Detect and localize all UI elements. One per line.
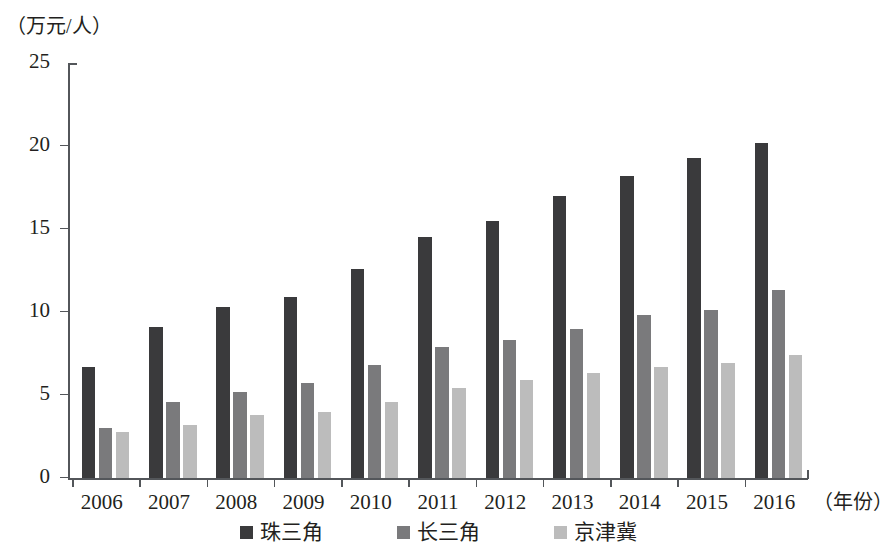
bar-group (284, 63, 332, 478)
bar-珠三角-2011 (418, 237, 432, 478)
x-axis-label-2009: 2009 (270, 487, 337, 517)
bar-珠三角-2007 (149, 327, 163, 478)
bar-group (82, 63, 130, 478)
bar-京津冀-2009 (318, 412, 332, 478)
bar-珠三角-2012 (486, 221, 500, 478)
y-axis-top-cap (68, 63, 77, 65)
y-axis-tick: 10 (60, 311, 68, 313)
bar-京津冀-2016 (789, 355, 803, 478)
x-axis-tick (745, 478, 747, 487)
bar-京津冀-2014 (654, 367, 668, 478)
x-axis-tick (476, 478, 478, 487)
x-axis-tick (139, 478, 141, 487)
bar-长三角-2012 (503, 340, 517, 478)
bar-长三角-2016 (772, 290, 786, 478)
x-axis-label-2013: 2013 (539, 487, 606, 517)
x-axis-tick (207, 478, 209, 487)
x-axis-label-2007: 2007 (135, 487, 202, 517)
y-axis-unit-label: （万元/人） (6, 10, 112, 39)
legend-item-京津冀[interactable]: 京津冀 (554, 521, 637, 543)
bar-group (149, 63, 197, 478)
bar-珠三角-2016 (755, 143, 769, 478)
bar-长三角-2008 (233, 392, 247, 478)
bar-长三角-2007 (166, 402, 180, 478)
legend-item-珠三角[interactable]: 珠三角 (240, 521, 323, 543)
legend-label: 长三角 (417, 521, 480, 543)
x-axis-line (68, 478, 808, 480)
y-axis-tick: 0 (60, 477, 68, 479)
x-axis-tick (72, 478, 74, 487)
bar-长三角-2006 (99, 428, 113, 478)
bar-珠三角-2006 (82, 367, 96, 478)
bar-长三角-2014 (637, 315, 651, 478)
y-axis-tick: 20 (60, 145, 68, 147)
y-axis-tick-label: 25 (29, 50, 50, 72)
y-axis-tick: 5 (60, 394, 68, 396)
bar-珠三角-2010 (351, 269, 365, 478)
bar-京津冀-2015 (721, 363, 735, 478)
legend-label: 珠三角 (260, 521, 323, 543)
bar-珠三角-2008 (216, 307, 230, 478)
bar-京津冀-2012 (520, 380, 534, 478)
legend-label: 京津冀 (574, 521, 637, 543)
y-axis-tick-label: 0 (40, 465, 51, 487)
legend-swatch-icon (397, 526, 410, 539)
bar-京津冀-2013 (587, 373, 601, 478)
bar-京津冀-2008 (250, 415, 264, 478)
bar-京津冀-2011 (452, 388, 466, 478)
x-axis-right-cap (807, 470, 809, 479)
x-axis-tick (610, 478, 612, 487)
legend-swatch-icon (554, 526, 567, 539)
x-axis-tick (408, 478, 410, 487)
y-axis-tick: 15 (60, 228, 68, 230)
y-axis-tick: 25 (60, 62, 68, 64)
x-axis-label-2012: 2012 (472, 487, 539, 517)
plot-area: 0510152025 20062007200820092010201120122… (68, 63, 808, 478)
y-axis-tick-label: 5 (40, 382, 51, 404)
bar-group (351, 63, 399, 478)
bar-长三角-2009 (301, 383, 315, 478)
bar-group (418, 63, 466, 478)
bar-group (755, 63, 803, 478)
y-axis-tick-label: 10 (29, 299, 50, 321)
bar-京津冀-2010 (385, 402, 399, 478)
bar-group (216, 63, 264, 478)
bar-珠三角-2014 (620, 176, 634, 478)
legend-swatch-icon (240, 526, 253, 539)
x-axis-label-2010: 2010 (337, 487, 404, 517)
bar-珠三角-2013 (553, 196, 567, 478)
bar-group (620, 63, 668, 478)
bar-珠三角-2009 (284, 297, 298, 478)
x-axis-label-2014: 2014 (606, 487, 673, 517)
bar-group (486, 63, 534, 478)
chart-legend: 珠三角长三角京津冀 (68, 516, 808, 548)
x-axis-label-2006: 2006 (68, 487, 135, 517)
x-axis-label-2008: 2008 (203, 487, 270, 517)
bar-长三角-2015 (704, 310, 718, 478)
bar-长三角-2010 (368, 365, 382, 478)
legend-item-长三角[interactable]: 长三角 (397, 521, 480, 543)
bar-group (687, 63, 735, 478)
y-axis-line (68, 63, 70, 478)
y-axis-tick-label: 15 (29, 216, 50, 238)
bar-京津冀-2007 (183, 425, 197, 478)
bar-京津冀-2006 (116, 432, 130, 478)
y-axis-tick-label: 20 (29, 133, 50, 155)
x-axis-tick (677, 478, 679, 487)
x-axis-label-2015: 2015 (673, 487, 740, 517)
bar-珠三角-2015 (687, 158, 701, 478)
bar-长三角-2013 (570, 329, 584, 478)
x-axis-unit-label: （年份） (813, 487, 884, 517)
bar-长三角-2011 (435, 347, 449, 478)
x-axis-tick (341, 478, 343, 487)
x-axis-label-2011: 2011 (404, 487, 471, 517)
x-axis-tick (274, 478, 276, 487)
bar-group (553, 63, 601, 478)
x-axis-label-2016: 2016 (741, 487, 808, 517)
x-axis-tick (543, 478, 545, 487)
